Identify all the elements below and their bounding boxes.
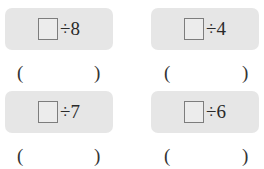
blank-square[interactable] [38,18,58,40]
answer-open-paren: ( [17,146,23,166]
expression-text: ÷6 [206,101,226,123]
answer-close-paren: ) [242,63,248,83]
blank-square[interactable] [184,101,204,123]
answer-close-paren: ) [94,146,100,166]
expression-box: ÷6 [151,91,259,133]
expression-box: ÷4 [151,8,259,50]
answer-open-paren: ( [164,63,170,83]
blank-square[interactable] [184,18,204,40]
answer-close-paren: ) [242,146,248,166]
expression-box: ÷7 [5,91,113,133]
expression-text: ÷4 [206,18,226,40]
answer-close-paren: ) [94,63,100,83]
expression-text: ÷8 [60,18,80,40]
blank-square[interactable] [38,101,58,123]
expression-text: ÷7 [60,101,80,123]
answer-open-paren: ( [17,63,23,83]
answer-open-paren: ( [164,146,170,166]
expression-box: ÷8 [5,8,113,50]
